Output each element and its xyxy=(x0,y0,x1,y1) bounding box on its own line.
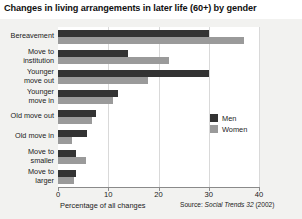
source-suffix: (2002) xyxy=(254,201,275,208)
legend-item: Men xyxy=(210,113,247,123)
x-axis-tick-label: 30 xyxy=(197,190,221,199)
x-axis-tick-label: 10 xyxy=(96,190,120,199)
bar-women xyxy=(58,177,74,184)
y-axis-category-label: Youngermove in xyxy=(0,88,54,104)
bar-women xyxy=(58,57,169,64)
bar-women xyxy=(58,97,113,104)
bar-men xyxy=(58,150,76,157)
bar-women xyxy=(58,137,72,144)
y-axis-label-line: move in xyxy=(0,97,54,105)
legend-swatch-women xyxy=(210,125,218,133)
x-axis-label: Percentage of all changes xyxy=(60,201,145,210)
y-axis-category-label: Youngermove out xyxy=(0,68,54,84)
source-prefix: Source: xyxy=(180,201,205,208)
bar-men xyxy=(58,110,96,117)
y-axis-label-line: Bereavement xyxy=(0,32,54,40)
gridline xyxy=(259,27,260,187)
page-title: Changes in living arrangements in later … xyxy=(4,3,300,14)
x-axis-tick-label: 0 xyxy=(46,190,70,199)
y-axis-label-line: institution xyxy=(0,57,54,65)
y-axis-category-label: Bereavement xyxy=(0,32,54,40)
gridline xyxy=(209,27,210,187)
legend-item: Women xyxy=(210,124,247,134)
bar-women xyxy=(58,117,92,124)
y-axis-category-label: Old move out xyxy=(0,112,54,120)
legend-label: Women xyxy=(222,125,247,134)
x-axis-tick-label: 40 xyxy=(247,190,271,199)
source-note: Source: Social Trends 32 (2002) xyxy=(180,201,274,208)
bar-women xyxy=(58,37,244,44)
source-title: Social Trends 32 xyxy=(205,201,254,208)
y-axis-label-line: Old move out xyxy=(0,112,54,120)
bar-women xyxy=(58,157,86,164)
y-axis-label-line: Old move in xyxy=(0,132,54,140)
bar-men xyxy=(58,70,209,77)
y-axis-category-label: Move tosmaller xyxy=(0,148,54,164)
bar-men xyxy=(58,90,118,97)
bar-men xyxy=(58,30,209,37)
bar-men xyxy=(58,170,76,177)
y-axis-label-line: move out xyxy=(0,77,54,85)
bar-men xyxy=(58,50,128,57)
y-axis-label-line: larger xyxy=(0,177,54,185)
legend-label: Men xyxy=(222,114,236,123)
y-axis-label-line: smaller xyxy=(0,157,54,165)
y-axis-category-label: Move toinstitution xyxy=(0,48,54,64)
chart-page: Changes in living arrangements in later … xyxy=(0,0,302,219)
gridline xyxy=(159,27,160,187)
bar-men xyxy=(58,130,87,137)
y-axis-category-label: Old move in xyxy=(0,132,54,140)
y-axis-category-label: Move tolarger xyxy=(0,168,54,184)
plot-area xyxy=(58,27,259,187)
legend-swatch-men xyxy=(210,114,218,122)
legend: MenWomen xyxy=(210,113,247,135)
x-axis-tick-label: 20 xyxy=(147,190,171,199)
bar-women xyxy=(58,77,148,84)
